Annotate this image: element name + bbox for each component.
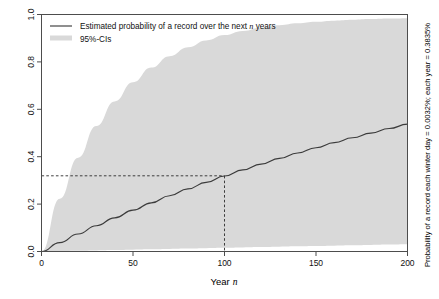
x-tick-label: 0	[39, 258, 44, 268]
right-axis-label: Probability of a record each winter day …	[423, 23, 432, 267]
x-tick-label: 100	[217, 258, 231, 268]
legend-band-swatch	[50, 36, 72, 41]
x-axis-title: Yearn	[211, 276, 238, 287]
x-tick-label: 150	[309, 258, 323, 268]
legend-item-ci: 95%-CIs	[80, 35, 111, 44]
chart-svg: 0.00.20.40.60.81.0 050100150200 Yearn Pr…	[0, 0, 439, 299]
y-tick-label: 0.0	[26, 245, 36, 257]
y-tick-label: 0.2	[26, 198, 36, 210]
x-axis-title-plain: Year	[211, 276, 230, 287]
legend-item-estimate: Estimated probability of a record over t…	[80, 22, 276, 31]
x-tick-label: 50	[128, 258, 138, 268]
x-axis-title-italic: n	[233, 277, 238, 287]
chart-figure: 0.00.20.40.60.81.0 050100150200 Yearn Pr…	[0, 0, 439, 299]
x-tick-label: 200	[400, 258, 414, 268]
y-tick-label: 1.0	[26, 8, 36, 20]
y-tick-label: 0.8	[26, 56, 36, 68]
y-tick-label: 0.4	[26, 151, 36, 163]
y-tick-label: 0.6	[26, 103, 36, 115]
